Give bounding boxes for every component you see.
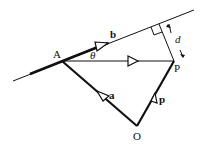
d-arrow-top-head [166,24,171,28]
perpendicular-segment [159,24,174,61]
d-arrow-bottom-head [180,54,185,58]
label-p-point: P [174,62,180,74]
label-vector-b: b [110,28,116,40]
segment-ap-arrowhead [128,56,138,66]
vector-b-arrowhead [95,42,108,51]
label-o-point: O [133,130,141,142]
label-vector-a: a [109,89,115,101]
label-angle-theta: θ [90,49,96,61]
vector-diagram: A P O a p b θ d [0,0,200,145]
label-distance-d: d [175,33,181,45]
label-a-point: A [53,48,61,60]
d-arrow-top [169,24,171,33]
label-vector-p: p [159,93,165,105]
